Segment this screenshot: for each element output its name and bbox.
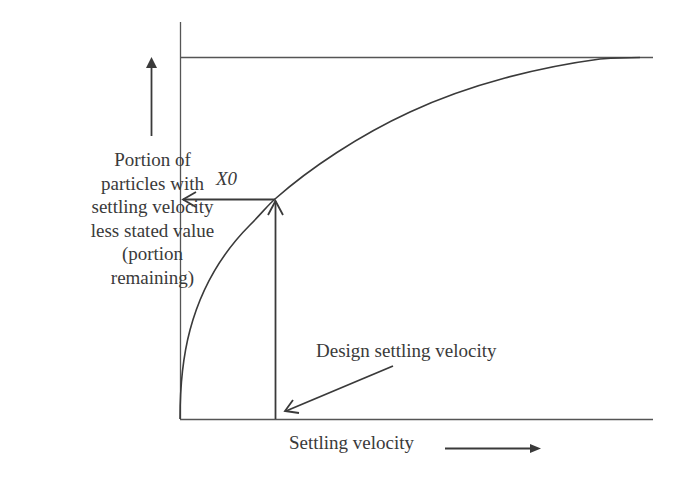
annotation-arrow <box>286 366 393 411</box>
y-axis-label-line: remaining) <box>50 266 255 290</box>
y-axis-label-line: settling velocity <box>50 195 255 219</box>
up-arrow-icon <box>146 57 157 68</box>
y-axis-label-line: less stated value <box>50 219 255 243</box>
x0-label: X0 <box>216 168 237 190</box>
right-arrow-icon <box>530 444 541 453</box>
x-axis-label: Settling velocity <box>289 432 414 454</box>
design-settling-velocity-label: Design settling velocity <box>316 340 496 362</box>
y-axis-label-line: (portion <box>50 242 255 266</box>
